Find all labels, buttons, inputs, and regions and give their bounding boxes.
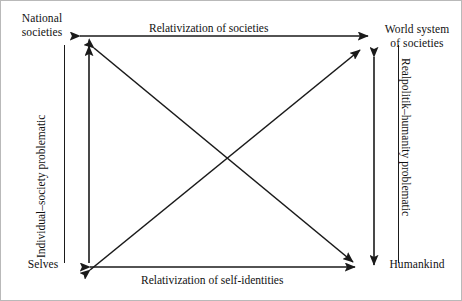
- edge-label-relativization-of-societies: Relativization of societies: [149, 21, 268, 35]
- node-national-societies: National societies: [9, 11, 75, 39]
- node-world-system-line1: World system: [375, 22, 459, 36]
- edge-label-relativization-of-self-identities: Relativization of self-identities: [141, 273, 283, 287]
- arrow-diagonal-tl-br: [94, 48, 353, 262]
- node-world-system-line2: of societies: [375, 36, 459, 50]
- diagram-canvas: National societies World system of socie…: [0, 0, 462, 301]
- edge-label-individual-society-problematic: Individual–society problematic: [34, 115, 48, 258]
- node-world-system-of-societies: World system of societies: [375, 22, 459, 50]
- arrow-diagonal-bl-tr: [90, 50, 360, 270]
- node-national-societies-line1: National: [9, 11, 75, 25]
- edge-label-realpolitik-humanity-problematic: Realpolitik–humanity problematic: [399, 58, 413, 216]
- node-humankind: Humankind: [381, 257, 453, 271]
- node-national-societies-line2: societies: [9, 25, 75, 39]
- node-selves: Selves: [15, 257, 71, 271]
